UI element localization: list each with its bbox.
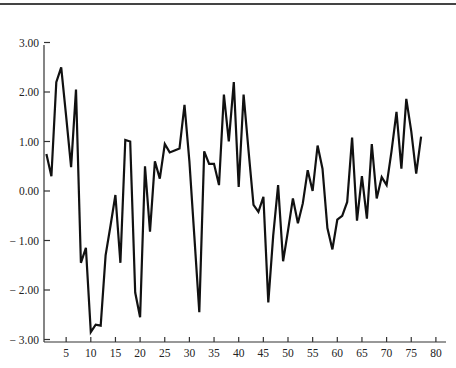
x-tick-label: 60	[332, 347, 344, 359]
x-tick-label: 55	[307, 347, 319, 359]
x-tick-label: 10	[85, 347, 97, 359]
x-axis: 5101520253035404550556065707580	[44, 337, 446, 359]
y-axis: 3.002.001.000.00− 1.00− 2.00− 3.00	[10, 37, 51, 346]
line-chart: 3.002.001.000.00− 1.00− 2.00− 3.00 51015…	[0, 0, 456, 368]
x-tick-label: 70	[381, 347, 393, 359]
y-tick-label: 1.00	[19, 136, 39, 148]
x-tick-label: 5	[63, 347, 69, 359]
x-tick-label: 45	[258, 347, 270, 359]
x-tick-label: 40	[233, 347, 245, 359]
x-tick-label: 25	[159, 347, 171, 359]
y-tick-label: 3.00	[19, 37, 39, 49]
x-tick-label: 50	[282, 347, 294, 359]
y-tick-label: − 2.00	[10, 284, 40, 296]
x-tick-label: 20	[134, 347, 146, 359]
x-tick-label: 35	[208, 347, 220, 359]
y-tick-label: − 1.00	[10, 235, 40, 247]
y-tick-label: 2.00	[19, 86, 39, 98]
x-tick-label: 80	[430, 347, 442, 359]
x-tick-label: 30	[184, 347, 196, 359]
y-tick-label: 0.00	[19, 185, 39, 197]
y-tick-label: − 3.00	[10, 334, 40, 346]
x-tick-label: 75	[406, 347, 418, 359]
x-tick-label: 15	[110, 347, 122, 359]
series-line	[46, 67, 421, 332]
x-tick-label: 65	[356, 347, 368, 359]
